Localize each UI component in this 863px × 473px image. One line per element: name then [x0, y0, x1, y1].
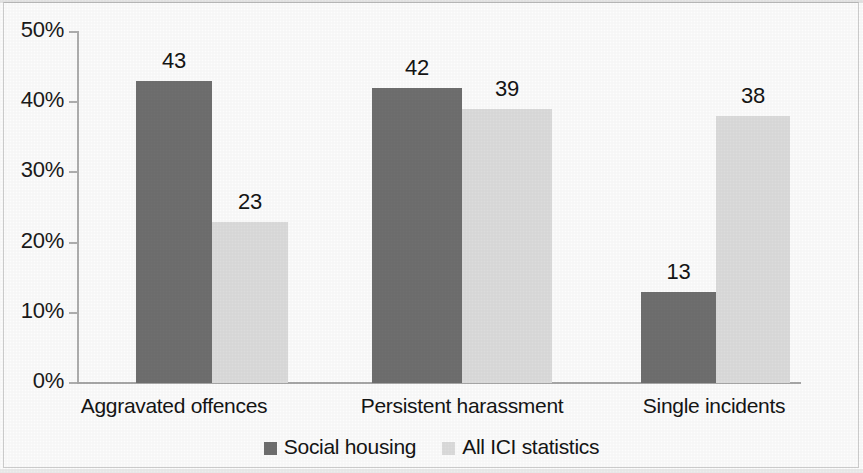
bar-1-1	[462, 109, 552, 383]
x-axis-category-label: Aggravated offences	[24, 394, 324, 418]
scan-edge-top	[0, 0, 863, 3]
bar-1-0	[212, 222, 288, 383]
y-axis-tick	[69, 312, 77, 314]
y-axis-tick-label: 30%	[0, 157, 64, 183]
bar-value-label: 23	[212, 189, 288, 215]
bar-0-2	[641, 292, 716, 383]
y-axis-tick	[69, 171, 77, 173]
y-axis-tick-label: 20%	[0, 228, 64, 254]
legend: Social housingAll ICI statistics	[0, 435, 863, 459]
scan-edge-bottom	[0, 469, 863, 473]
legend-label: Social housing	[284, 435, 416, 459]
bar-1-2	[716, 116, 790, 383]
bar-value-label: 43	[136, 48, 212, 74]
bar-value-label: 13	[641, 259, 716, 285]
y-axis-tick	[69, 101, 77, 103]
bar-value-label: 42	[372, 55, 462, 81]
bar-value-label: 38	[716, 83, 790, 109]
y-axis-tick	[69, 242, 77, 244]
bar-0-1	[372, 88, 462, 383]
legend-swatch-icon	[442, 442, 455, 455]
y-axis-tick-label: 40%	[0, 87, 64, 113]
y-axis-tick-label: 50%	[0, 17, 64, 43]
bar-0-0	[136, 81, 212, 383]
legend-item: Social housing	[264, 435, 416, 459]
legend-label: All ICI statistics	[462, 435, 599, 459]
y-axis-tick-label: 10%	[0, 298, 64, 324]
legend-item: All ICI statistics	[442, 435, 599, 459]
bar-value-label: 39	[462, 76, 552, 102]
y-axis-tick	[69, 31, 77, 33]
x-axis-category-label: Single incidents	[564, 394, 863, 418]
y-axis-line	[77, 31, 79, 384]
y-axis-tick-label: 0%	[0, 368, 64, 394]
legend-swatch-icon	[264, 442, 277, 455]
bar-chart: 50%40%30%20%10%0% 432342391338 Aggravate…	[0, 0, 863, 473]
y-axis-tick	[69, 382, 77, 384]
